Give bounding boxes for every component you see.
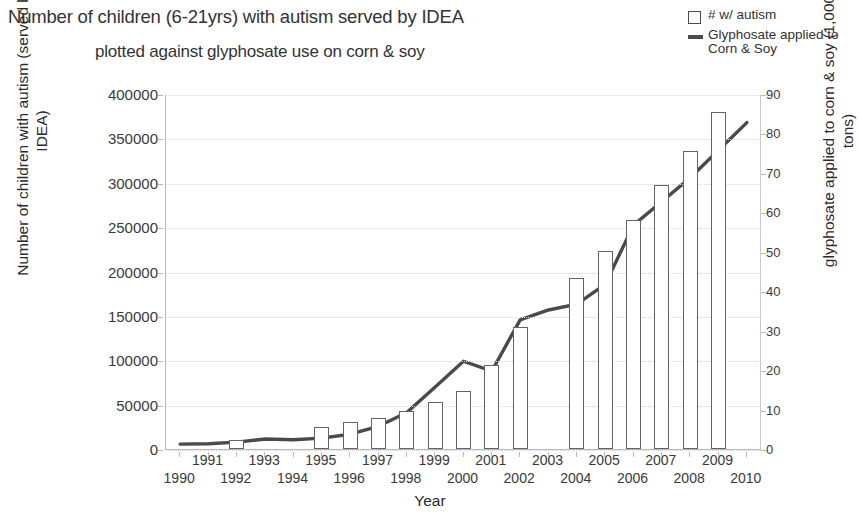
x-axis-tick-mark <box>604 452 605 457</box>
y-axis-left-tick-label: 200000 <box>80 264 158 281</box>
x-axis-tick-mark <box>718 452 719 457</box>
chart-subtitle-line-2: plotted against glyphosate use on corn &… <box>95 42 695 62</box>
x-axis-tick-mark <box>633 452 634 457</box>
x-axis-tick-mark <box>208 452 209 457</box>
x-axis-tick-label-1994: 1994 <box>270 470 316 486</box>
gridline <box>166 450 761 451</box>
y-axis-left-tick-mark <box>158 450 163 451</box>
y-axis-left-tick-mark <box>158 361 163 362</box>
x-axis-tick-mark <box>321 452 322 457</box>
bar-1995 <box>314 427 329 449</box>
bar-1997 <box>371 418 386 449</box>
x-axis-tick-mark <box>236 452 237 457</box>
y-axis-left-tick-mark <box>158 273 163 274</box>
y-axis-left-tick-mark <box>158 95 163 96</box>
bar-1999 <box>428 402 443 449</box>
bar-2004 <box>569 278 584 449</box>
y-axis-left-title: Number of children with autism (served b… <box>13 0 51 281</box>
x-axis-tick-mark <box>264 452 265 457</box>
y-axis-left-tick-mark <box>158 317 163 318</box>
y-axis-left-tick-mark <box>158 228 163 229</box>
y-axis-right-tick-label: 40 <box>766 284 800 299</box>
x-axis-tick-mark <box>406 452 407 457</box>
bar-2001 <box>484 365 499 449</box>
gridline <box>166 228 761 229</box>
x-axis-tick-mark <box>519 452 520 457</box>
bar-2000 <box>456 391 471 449</box>
y-axis-left-tick-mark <box>158 406 163 407</box>
bar-1998 <box>399 411 414 449</box>
y-axis-right-tick-label: 50 <box>766 245 800 260</box>
x-axis-tick-label-1990: 1990 <box>156 470 202 486</box>
x-axis-tick-label-1998: 1998 <box>383 470 429 486</box>
x-axis-tick-mark <box>576 452 577 457</box>
x-axis-tick-label-1992: 1992 <box>213 470 259 486</box>
x-axis-tick-mark <box>463 452 464 457</box>
y-axis-right-tick-label: 70 <box>766 166 800 181</box>
x-axis-tick-label-2000: 2000 <box>440 470 486 486</box>
y-axis-right-tick-label: 30 <box>766 324 800 339</box>
x-axis-tick-label-2004: 2004 <box>553 470 599 486</box>
x-axis-title: Year <box>0 492 860 510</box>
bar-1992 <box>229 440 244 449</box>
x-axis-tick-mark <box>434 452 435 457</box>
bar-2008 <box>683 151 698 449</box>
y-axis-left-tick-label: 100000 <box>80 352 158 369</box>
y-axis-left-tick-label: 250000 <box>80 219 158 236</box>
x-axis-tick-mark <box>179 452 180 457</box>
y-axis-left-tick-label: 150000 <box>80 308 158 325</box>
x-axis-tick-label-1996: 1996 <box>326 470 372 486</box>
x-axis-tick-mark <box>548 452 549 457</box>
x-axis-tick-label-2010: 2010 <box>723 470 769 486</box>
y-axis-left-tick-mark <box>158 184 163 185</box>
x-axis-tick-label-2002: 2002 <box>496 470 542 486</box>
y-axis-right-tick-label: 90 <box>766 87 800 102</box>
legend-line-icon <box>688 28 708 39</box>
x-axis-tick-mark <box>746 452 747 457</box>
gridline <box>166 361 761 362</box>
x-axis-tick-mark <box>378 452 379 457</box>
gridline <box>166 184 761 185</box>
x-axis-tick-mark <box>491 452 492 457</box>
bar-2002 <box>513 327 528 449</box>
x-axis-tick-mark <box>689 452 690 457</box>
y-axis-left-tick-label: 400000 <box>80 86 158 103</box>
plot-area <box>165 95 760 450</box>
x-axis-tick-label-2008: 2008 <box>666 470 712 486</box>
y-axis-left-tick-label: 350000 <box>80 130 158 147</box>
chart-title-line-1: Number of children (6-21yrs) with autism… <box>8 6 668 28</box>
y-axis-left-tick-mark <box>158 139 163 140</box>
x-axis-ticks: 1990199119921993199419951996199719981999… <box>0 452 860 492</box>
legend-label-autism: # w/ autism <box>708 8 776 22</box>
y-axis-right-tick-label: 20 <box>766 363 800 378</box>
bar-2007 <box>654 185 669 449</box>
bar-2005 <box>598 251 613 449</box>
y-axis-right-tick-label: 10 <box>766 403 800 418</box>
y-axis-right-tick-label: 80 <box>766 126 800 141</box>
bar-1996 <box>343 422 358 449</box>
y-axis-right-ticks: 0102030405060708090 <box>766 95 806 451</box>
gridline <box>166 317 761 318</box>
gridline <box>166 95 761 96</box>
x-axis-tick-label-2006: 2006 <box>610 470 656 486</box>
x-axis-tick-mark <box>293 452 294 457</box>
x-axis-tick-mark <box>349 452 350 457</box>
gridline <box>166 139 761 140</box>
y-axis-left-tick-label: 50000 <box>80 397 158 414</box>
bar-2009 <box>711 112 726 449</box>
chart-canvas: Number of children (6-21yrs) with autism… <box>0 0 860 520</box>
y-axis-left-ticks: 0500001000001500002000002500003000003500… <box>78 95 158 451</box>
x-axis-tick-mark <box>661 452 662 457</box>
bar-2006 <box>626 220 641 449</box>
y-axis-left-tick-label: 300000 <box>80 175 158 192</box>
y-axis-right-tick-label: 60 <box>766 205 800 220</box>
legend-box-icon <box>688 8 708 24</box>
y-axis-right-title: glyphosate applied to corn & soy (1,000 … <box>819 0 857 281</box>
gridline <box>166 273 761 274</box>
